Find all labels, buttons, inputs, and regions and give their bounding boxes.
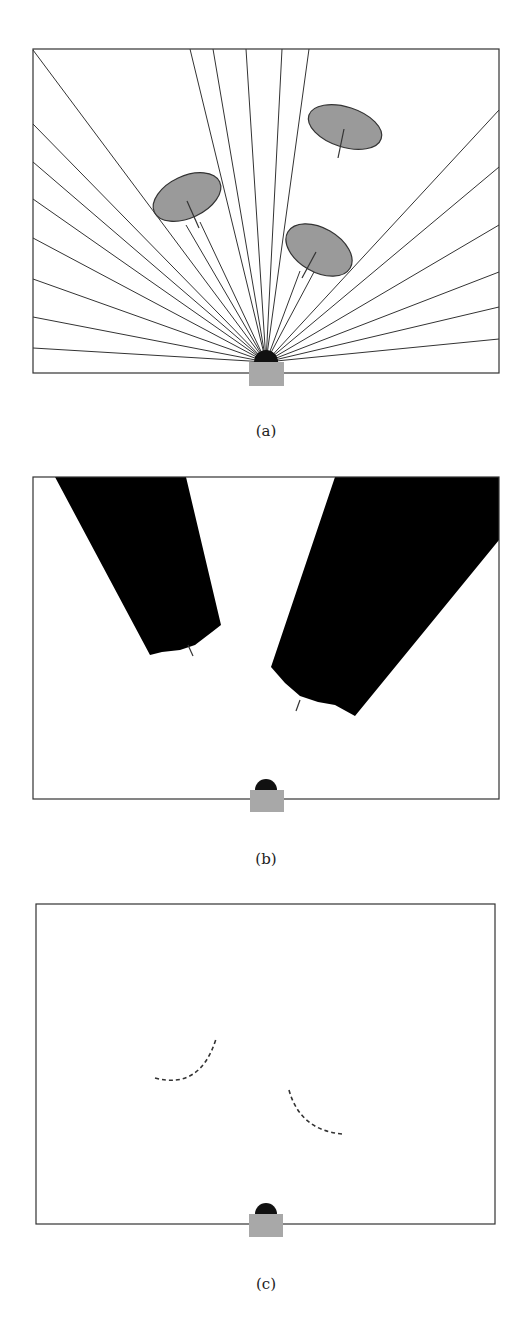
sensor-ray — [33, 199, 266, 362]
sensor-ray — [200, 222, 266, 362]
sensor-ray — [33, 238, 266, 362]
sensor-dome-icon — [255, 779, 277, 790]
panel-c — [36, 904, 495, 1237]
sensor-dome-icon — [254, 350, 278, 362]
visible-boundary-arc — [155, 1039, 216, 1080]
sensor-ray — [266, 272, 314, 362]
sensor-ray — [33, 279, 266, 362]
sensor-body-icon — [250, 790, 284, 812]
occlusion-shadow — [55, 477, 221, 655]
obstacle-ellipse — [303, 96, 388, 158]
obstacle-normal-tick — [188, 645, 193, 656]
obstacle-normal-tick — [296, 700, 300, 711]
sensor-ray — [266, 49, 282, 362]
panel-a — [33, 49, 499, 386]
sensor-ray — [33, 162, 266, 362]
sensor-ray — [266, 339, 499, 362]
sensor-ray — [266, 307, 499, 362]
obstacle-ellipse — [145, 163, 228, 231]
sensor-ray — [266, 49, 309, 362]
panel-frame — [36, 904, 495, 1224]
caption-a: (a) — [236, 422, 296, 440]
sensor-body-icon — [249, 362, 284, 386]
sensor-dome-icon — [255, 1203, 277, 1214]
sensor-ray — [33, 124, 266, 362]
figure-canvas — [0, 0, 525, 1333]
visible-boundary-arc — [289, 1090, 342, 1134]
caption-c: (c) — [236, 1275, 296, 1293]
sensor-ray — [246, 49, 266, 362]
sensor-ray — [213, 49, 266, 362]
sensor-body-icon — [249, 1214, 283, 1237]
panel-frame — [33, 49, 499, 373]
panel-b — [33, 477, 499, 812]
sensor-ray — [266, 272, 499, 362]
caption-b: (b) — [236, 850, 296, 868]
sensor-ray — [33, 50, 266, 362]
occlusion-shadow — [271, 477, 499, 716]
obstacle-ellipse — [277, 213, 361, 287]
